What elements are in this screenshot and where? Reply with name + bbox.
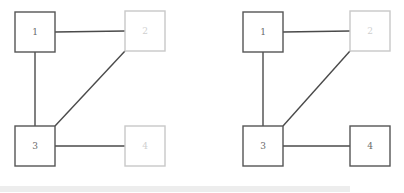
horizontal-scrollbar-thumb[interactable] bbox=[0, 186, 350, 192]
diagram-canvas: 1234 1234 bbox=[0, 0, 404, 193]
graph-node-label-3: 3 bbox=[32, 141, 38, 151]
graph-node-label-3: 3 bbox=[260, 141, 266, 151]
graph-node-label-4: 4 bbox=[367, 141, 373, 151]
graph-node-label-1: 1 bbox=[260, 27, 266, 37]
graph-node-label-2: 2 bbox=[142, 26, 148, 36]
right-graph-panel: 1234 bbox=[202, 0, 404, 180]
horizontal-scrollbar-track[interactable] bbox=[0, 185, 404, 193]
left-graph-panel: 1234 bbox=[0, 0, 202, 180]
graph-edge bbox=[283, 31, 350, 32]
graph-node-label-4: 4 bbox=[142, 141, 148, 151]
right-graph-svg: 1234 bbox=[202, 0, 404, 180]
graph-edge bbox=[55, 51, 125, 126]
graph-node-label-1: 1 bbox=[32, 27, 38, 37]
left-graph-svg: 1234 bbox=[0, 0, 202, 180]
graph-node-label-2: 2 bbox=[367, 26, 373, 36]
graph-edge bbox=[283, 51, 350, 126]
graph-edge bbox=[55, 31, 125, 32]
